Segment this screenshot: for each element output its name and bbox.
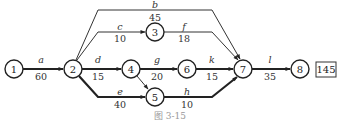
node-1: 1: [5, 60, 23, 78]
svg-text:7: 7: [240, 64, 246, 75]
node-8: 8: [291, 60, 309, 78]
edge-k-duration: 15: [206, 71, 218, 82]
edge-b-duration: 45: [149, 12, 161, 23]
edge-f-duration: 18: [178, 33, 190, 44]
edge-g-duration: 20: [151, 71, 163, 82]
edge-e-name: e: [117, 86, 123, 97]
node-7: 7: [234, 60, 252, 78]
svg-text:3: 3: [152, 27, 158, 38]
edge-d-duration: 15: [92, 71, 104, 82]
svg-text:5: 5: [152, 92, 158, 103]
edge-e: [79, 76, 145, 97]
svg-text:6: 6: [184, 64, 190, 75]
edge-d-name: d: [95, 54, 101, 65]
edge-g-name: g: [154, 54, 160, 65]
edge-h: [164, 77, 237, 97]
edge-c-name: c: [117, 21, 123, 32]
edge-dummy: [137, 76, 148, 89]
total-duration-box: 145: [316, 62, 336, 77]
node-6: 6: [178, 60, 196, 78]
node-2: 2: [64, 60, 82, 78]
svg-text:2: 2: [70, 64, 76, 75]
node-5: 5: [146, 88, 164, 106]
edge-k-name: k: [209, 54, 215, 65]
network-diagram: a 60 b 45 c 10 d 15 e 40 f 18 g 20 k 15 …: [0, 0, 338, 122]
edge-e-duration: 40: [114, 99, 126, 110]
node-3: 3: [146, 23, 164, 41]
svg-text:1: 1: [11, 64, 17, 75]
edge-h-duration: 10: [181, 99, 193, 110]
svg-text:4: 4: [128, 64, 134, 75]
edge-c: [77, 32, 145, 60]
edge-c-duration: 10: [114, 33, 126, 44]
edge-l-duration: 35: [264, 71, 276, 82]
node-4: 4: [122, 60, 140, 78]
edge-a-name: a: [38, 54, 44, 65]
edge-a-duration: 60: [35, 71, 47, 82]
svg-text:145: 145: [316, 64, 335, 75]
figure-caption: 图 3-15: [154, 111, 186, 121]
edge-l-name: l: [268, 54, 271, 65]
edge-f-name: f: [181, 21, 187, 32]
svg-text:8: 8: [297, 64, 303, 75]
edge-b-name: b: [152, 0, 158, 10]
edge-h-name: h: [184, 86, 190, 97]
